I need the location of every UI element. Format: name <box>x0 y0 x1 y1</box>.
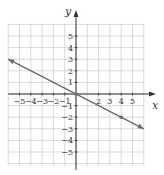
data-point <box>119 115 123 119</box>
x-tick-label: 5 <box>130 97 135 106</box>
y-tick-label: 3 <box>68 55 73 64</box>
y-tick-label: 4 <box>68 44 73 53</box>
y-tick-label: −2 <box>61 113 73 122</box>
x-tick-label: −4 <box>25 97 37 106</box>
x-tick-label: 4 <box>119 97 124 106</box>
y-tick-label: −1 <box>61 102 73 111</box>
x-axis-arrow-icon <box>149 92 156 97</box>
coordinate-plane-chart: −5−4−3−2−1234554321−1−2−3−4−5 x y <box>0 0 164 175</box>
y-tick-label: 2 <box>68 67 73 76</box>
y-tick-label: −4 <box>61 136 73 145</box>
data-point <box>74 92 78 96</box>
y-tick-label: −3 <box>61 125 73 134</box>
y-axis-arrow-icon <box>74 10 79 17</box>
y-tick-label: 5 <box>68 32 73 41</box>
x-axis-label: x <box>152 99 159 112</box>
x-tick-label: −3 <box>36 97 48 106</box>
x-tick-label: 3 <box>107 97 112 106</box>
y-tick-label: −5 <box>61 148 73 157</box>
axes <box>8 10 156 170</box>
y-axis-label: y <box>64 5 72 18</box>
x-tick-label: −2 <box>48 97 60 106</box>
x-tick-label: −5 <box>14 97 26 106</box>
y-tick-label: 1 <box>68 78 73 87</box>
